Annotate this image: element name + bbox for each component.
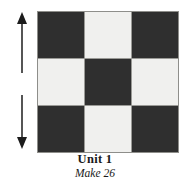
patch-r3c2	[85, 106, 131, 152]
caption-block: Unit 1 Make 26	[0, 153, 190, 179]
patch-r2c1	[38, 59, 84, 105]
quilt-unit-diagram: Unit 1 Make 26	[0, 0, 190, 184]
vertical-double-arrow-icon	[11, 11, 33, 151]
patch-r1c3	[132, 12, 178, 58]
unit-title: Unit 1	[0, 153, 190, 166]
patch-r1c1	[38, 12, 84, 58]
patch-r1c2	[85, 12, 131, 58]
quilt-block-grid	[38, 12, 178, 152]
patch-r3c3	[132, 106, 178, 152]
patch-r2c3	[132, 59, 178, 105]
patch-r2c2	[85, 59, 131, 105]
make-count-label: Make 26	[0, 167, 190, 179]
patch-r3c1	[38, 106, 84, 152]
